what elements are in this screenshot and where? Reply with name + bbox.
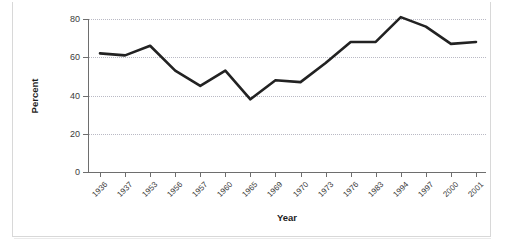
x-axis-title: Year <box>88 212 486 223</box>
x-tick-label-2001: 2001 <box>466 180 485 199</box>
x-tick-label-1969: 1969 <box>266 180 285 199</box>
page-border-right <box>490 2 491 236</box>
x-axis-line <box>88 172 486 173</box>
y-tick-label-40: 40 <box>70 91 80 101</box>
plot-area: 020406080 193619371953195619571960196519… <box>88 19 486 172</box>
y-tick-label-80: 80 <box>70 14 80 24</box>
x-tick-label-1983: 1983 <box>366 180 385 199</box>
y-tick-label-60: 60 <box>70 52 80 62</box>
x-tick-label-1970: 1970 <box>291 180 310 199</box>
y-axis-title: Percent <box>29 79 40 114</box>
x-tick-label-1994: 1994 <box>391 180 410 199</box>
page-border-bottom <box>12 236 491 237</box>
x-tick-label-1976: 1976 <box>341 180 360 199</box>
x-tick-label-1960: 1960 <box>216 180 235 199</box>
y-tick-label-0: 0 <box>75 167 80 177</box>
x-tick-label-1957: 1957 <box>191 180 210 199</box>
x-tick-label-1973: 1973 <box>316 180 335 199</box>
x-tick-label-1937: 1937 <box>115 180 134 199</box>
x-tick-label-1965: 1965 <box>241 180 260 199</box>
series-line-percent <box>88 19 486 172</box>
x-tick-label-2000: 2000 <box>441 180 460 199</box>
x-tick-label-1936: 1936 <box>90 180 109 199</box>
x-tick-label-1956: 1956 <box>166 180 185 199</box>
x-tick-label-1997: 1997 <box>416 180 435 199</box>
page-border-left <box>12 2 13 236</box>
y-tick-label-20: 20 <box>70 129 80 139</box>
x-tick-label-1953: 1953 <box>141 180 160 199</box>
chart-figure: Percent 020406080 1936193719531956195719… <box>0 0 506 250</box>
page-border-bottom-shadow <box>14 238 491 239</box>
